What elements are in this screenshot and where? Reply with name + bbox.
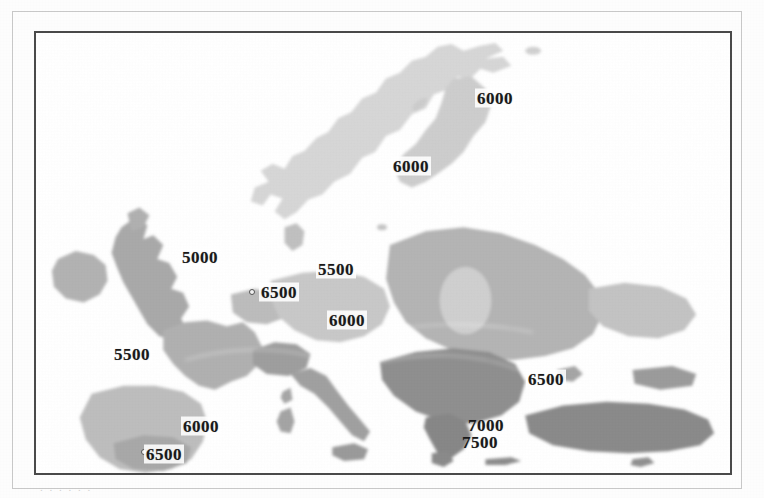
- scan-page: 6000600050005500650060005500650060007000…: [0, 0, 764, 498]
- contour-label-6000-5: 6000: [327, 311, 367, 330]
- contour-label-6000-8: 6000: [181, 417, 221, 436]
- europe-map-svg: [36, 33, 730, 473]
- figure-frame: 6000600050005500650060005500650060007000…: [34, 31, 732, 475]
- contour-label-6000-0: 6000: [475, 89, 515, 108]
- caption-stub: . . . . . .: [40, 481, 92, 493]
- contour-label-5000-2: 5000: [180, 248, 220, 267]
- contour-label-6500-11: 6500: [144, 445, 184, 464]
- contour-label-6000-1: 6000: [391, 157, 431, 176]
- scan-grain-overlay: [36, 33, 730, 473]
- contour-label-6500-7: 6500: [526, 370, 566, 389]
- label-leader-dot: [249, 289, 255, 295]
- contour-label-6500-4: 6500: [259, 283, 299, 302]
- contour-label-7500-10: 7500: [460, 433, 500, 452]
- contour-label-5500-6: 5500: [112, 345, 152, 364]
- map-canvas: [36, 33, 730, 473]
- contour-label-5500-3: 5500: [316, 260, 356, 279]
